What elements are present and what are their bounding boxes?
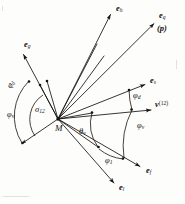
angle-label-phi-v-right: φv xyxy=(137,121,144,131)
dot-left-lower xyxy=(21,142,24,145)
angle-arcs xyxy=(14,81,132,159)
p-parenthesis-annotation: (p) xyxy=(157,24,167,33)
dot-origin xyxy=(56,117,59,120)
dot-phi-v-arc xyxy=(28,80,31,83)
vector-label-v-12: v(12) xyxy=(155,100,168,109)
arc-phi-v-left xyxy=(14,81,29,143)
dot-e-s xyxy=(128,89,131,92)
scan-artifact xyxy=(3,196,29,197)
ray-phi1-upper xyxy=(58,119,98,147)
vector-label-e-l: el xyxy=(119,183,124,193)
ray-upper-left-2 xyxy=(47,81,58,119)
arc-sigma-12 xyxy=(30,95,43,136)
vector-label-e-f: ef xyxy=(146,166,151,176)
origin-label-m: M xyxy=(55,124,63,133)
ray-e-q xyxy=(58,24,154,120)
vector-label-e-h: eh xyxy=(116,4,123,14)
scan-artifact xyxy=(2,6,3,11)
vector-label-e-g: eg xyxy=(24,40,31,50)
vector-label-e-q: eq xyxy=(159,11,166,21)
ray-v-12 xyxy=(58,110,151,119)
ray-e-f xyxy=(58,119,140,167)
ray-h-inner xyxy=(58,44,97,119)
dot-upper-left-2 xyxy=(46,80,49,83)
angle-label-theta-v: θv xyxy=(79,127,86,137)
arc-phi-d xyxy=(129,90,132,110)
angle-label-phi-1: φ1 xyxy=(105,156,113,166)
tick-dots xyxy=(21,80,133,160)
angle-label-phi-v-left: φv xyxy=(7,110,14,120)
ray-left-lower xyxy=(22,119,58,144)
dot-v-12 xyxy=(130,108,133,111)
dot-e-l xyxy=(97,146,100,149)
dot-upper-left xyxy=(39,84,42,87)
dot-e-f xyxy=(122,157,125,160)
dot-theta xyxy=(91,111,94,114)
arc-phi-v-right xyxy=(123,110,132,158)
angle-label-phi-d-right: φd xyxy=(133,91,141,101)
vector-angle-diagram: eg eh eq es v(12) ef el (p) φd φv σ12 θv… xyxy=(0,0,185,204)
vector-label-e-s: es xyxy=(150,76,156,86)
scan-artifact xyxy=(176,60,177,69)
angle-label-sigma-12: σ12 xyxy=(35,105,45,115)
ray-e-l xyxy=(58,119,114,183)
